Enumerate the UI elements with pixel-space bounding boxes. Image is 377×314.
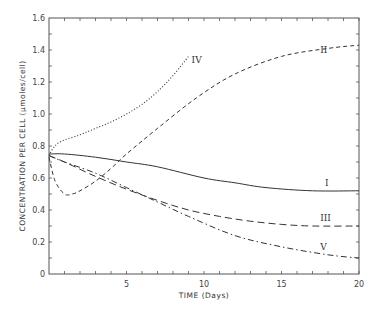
x-tick-label: 20: [354, 280, 364, 289]
curve-label-iii: III: [320, 213, 331, 223]
curve-label-iv: IV: [192, 55, 203, 65]
curve-ii: [49, 45, 359, 195]
curve-label-v: V: [319, 242, 327, 252]
curve-iv: [49, 56, 189, 155]
y-tick-label: 0: [40, 270, 45, 279]
data-curves: [49, 45, 359, 258]
plot-frame: [49, 18, 359, 274]
y-tick-label: 0.8: [32, 142, 45, 151]
curve-v: [49, 156, 359, 258]
y-tick-label: 1.0: [32, 110, 45, 119]
y-tick-label: 0.4: [32, 206, 45, 215]
y-tick-label: 1.2: [32, 78, 45, 87]
y-tick-label: 1.4: [32, 46, 45, 55]
x-axis-label: TIME (Days): [178, 291, 229, 300]
x-tick-label: 5: [124, 280, 129, 289]
y-tick-label: 0.6: [32, 174, 45, 183]
x-tick-label: 15: [276, 280, 286, 289]
plot-border: [49, 18, 359, 274]
y-axis-label: CONCENTRATION PER CELL (μmoles/cell): [18, 60, 27, 231]
line-chart: 510152000.20.40.60.81.01.21.41.6 IIIIIII…: [0, 0, 377, 314]
y-tick-label: 1.6: [32, 14, 45, 23]
curve-labels: IIIIIIIVV: [192, 45, 332, 252]
y-tick-label: 0.2: [32, 238, 45, 247]
curve-label-ii: II: [320, 45, 328, 55]
curve-i: [49, 154, 359, 191]
curve-label-i: I: [325, 178, 329, 188]
x-tick-label: 10: [199, 280, 209, 289]
